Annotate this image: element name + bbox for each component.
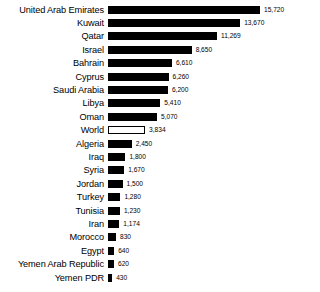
bar-value-label: 1,174 bbox=[119, 220, 140, 228]
bar-value-label: 830 bbox=[116, 233, 131, 241]
bar-row: Bahrain6,610 bbox=[0, 57, 320, 70]
bar-value-label: 8,650 bbox=[192, 46, 213, 54]
bar-category-label: Kuwait bbox=[0, 18, 108, 28]
bar-zone: 1,280 bbox=[108, 190, 320, 203]
bar bbox=[108, 19, 240, 27]
bar-row: Libya5,410 bbox=[0, 97, 320, 110]
bar-value-label: 2,450 bbox=[132, 140, 153, 148]
bar bbox=[108, 207, 120, 215]
bar-zone: 640 bbox=[108, 244, 320, 257]
bar-zone: 11,269 bbox=[108, 30, 320, 43]
bar-zone: 5,070 bbox=[108, 110, 320, 123]
bar-row: United Arab Emirates15,720 bbox=[0, 3, 320, 16]
bar-category-label: Iran bbox=[0, 219, 108, 229]
bar-row: Qatar11,269 bbox=[0, 30, 320, 43]
bar-zone: 2,450 bbox=[108, 137, 320, 150]
bar bbox=[108, 73, 169, 81]
bar-value-label: 3,834 bbox=[145, 126, 166, 134]
bar-value-label: 640 bbox=[114, 247, 129, 255]
bar-value-label: 1,280 bbox=[120, 193, 141, 201]
bar-value-label: 1,500 bbox=[123, 180, 144, 188]
bar-category-label: Libya bbox=[0, 98, 108, 108]
bar-zone: 830 bbox=[108, 231, 320, 244]
bar bbox=[108, 99, 160, 107]
bar bbox=[108, 46, 192, 54]
bar-category-label: Iraq bbox=[0, 152, 108, 162]
bar-row: Egypt640 bbox=[0, 244, 320, 257]
bar-zone: 1,800 bbox=[108, 150, 320, 163]
bar-category-label: Jordan bbox=[0, 179, 108, 189]
bar bbox=[108, 6, 260, 14]
bar-row: Yemen Arab Republic620 bbox=[0, 257, 320, 270]
bar-value-label: 1,230 bbox=[120, 207, 141, 215]
bar-zone: 5,410 bbox=[108, 97, 320, 110]
bar-category-label: World bbox=[0, 125, 108, 135]
bar bbox=[108, 166, 124, 174]
bar-value-label: 6,260 bbox=[169, 73, 190, 81]
bar-row: Turkey1,280 bbox=[0, 190, 320, 203]
bar-row: Syria1,670 bbox=[0, 164, 320, 177]
bar-category-label: Saudi Arabia bbox=[0, 85, 108, 95]
bar bbox=[108, 86, 168, 94]
bar bbox=[108, 153, 125, 161]
bar-row: Iran1,174 bbox=[0, 217, 320, 230]
bar-row: Kuwait13,670 bbox=[0, 16, 320, 29]
bar-zone: 1,670 bbox=[108, 164, 320, 177]
bar-category-label: Egypt bbox=[0, 246, 108, 256]
bar-row: Israel8,650 bbox=[0, 43, 320, 56]
bar-category-label: Turkey bbox=[0, 192, 108, 202]
bar-row: Saudi Arabia6,200 bbox=[0, 83, 320, 96]
bar-zone: 6,610 bbox=[108, 57, 320, 70]
bar-value-label: 6,200 bbox=[168, 86, 189, 94]
bar-category-label: Algeria bbox=[0, 139, 108, 149]
bar-category-label: Oman bbox=[0, 112, 108, 122]
bar bbox=[108, 233, 116, 241]
bar bbox=[108, 180, 123, 188]
bar-zone: 13,670 bbox=[108, 16, 320, 29]
bar-value-label: 5,410 bbox=[160, 99, 181, 107]
bar-zone: 6,260 bbox=[108, 70, 320, 83]
bar-category-label: Yemen PDR bbox=[0, 273, 108, 283]
bar-category-label: Cyprus bbox=[0, 72, 108, 82]
bar-category-label: Qatar bbox=[0, 31, 108, 41]
bar-zone: 8,650 bbox=[108, 43, 320, 56]
bar-zone: 1,500 bbox=[108, 177, 320, 190]
bar-zone: 1,230 bbox=[108, 204, 320, 217]
bar-row: Yemen PDR430 bbox=[0, 271, 320, 284]
bar-value-label: 11,269 bbox=[217, 32, 241, 40]
bar-zone: 3,834 bbox=[108, 124, 320, 137]
bar bbox=[108, 59, 172, 67]
bar-category-label: Syria bbox=[0, 165, 108, 175]
bar bbox=[108, 193, 120, 201]
bar-value-label: 6,610 bbox=[172, 59, 193, 67]
bar-row: Morocco830 bbox=[0, 231, 320, 244]
bar-value-label: 13,670 bbox=[240, 19, 264, 27]
bar-value-label: 620 bbox=[114, 260, 129, 268]
bar-value-label: 1,800 bbox=[125, 153, 146, 161]
bar-category-label: Tunisia bbox=[0, 206, 108, 216]
bar-row: Cyprus6,260 bbox=[0, 70, 320, 83]
bar-highlighted bbox=[108, 126, 145, 134]
bar-zone: 15,720 bbox=[108, 3, 320, 16]
bar bbox=[108, 140, 132, 148]
bar-row: Iraq1,800 bbox=[0, 150, 320, 163]
bar-category-label: Israel bbox=[0, 45, 108, 55]
bar-zone: 620 bbox=[108, 257, 320, 270]
bar-zone: 430 bbox=[108, 271, 320, 284]
bar-row: Tunisia1,230 bbox=[0, 204, 320, 217]
bar-row: Jordan1,500 bbox=[0, 177, 320, 190]
bar-value-label: 15,720 bbox=[260, 6, 284, 14]
bar-row: Oman5,070 bbox=[0, 110, 320, 123]
bar-row: World3,834 bbox=[0, 124, 320, 137]
bar bbox=[108, 113, 157, 121]
bar-category-label: Morocco bbox=[0, 232, 108, 242]
bar bbox=[108, 220, 119, 228]
bar-value-label: 430 bbox=[112, 274, 127, 282]
bar-value-label: 1,670 bbox=[124, 166, 145, 174]
bar-category-label: United Arab Emirates bbox=[0, 5, 108, 15]
bar-chart-rows: United Arab Emirates15,720Kuwait13,670Qa… bbox=[0, 3, 320, 284]
bar-row: Algeria2,450 bbox=[0, 137, 320, 150]
bar-category-label: Bahrain bbox=[0, 58, 108, 68]
bar-chart: United Arab Emirates15,720Kuwait13,670Qa… bbox=[0, 0, 320, 292]
bar-zone: 6,200 bbox=[108, 83, 320, 96]
